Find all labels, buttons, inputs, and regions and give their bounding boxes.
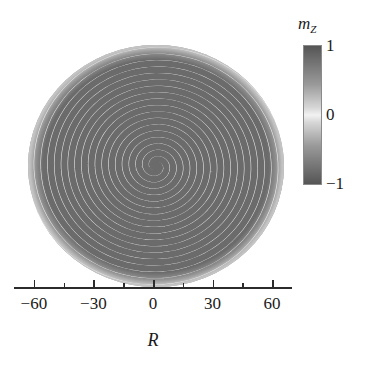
figure-panel: −60−3003060 R mZ 10−1	[0, 0, 372, 374]
x-axis-minor-tick	[242, 283, 243, 287]
colorbar-title-subscript: Z	[310, 23, 316, 35]
x-axis-tick	[93, 280, 95, 287]
colorbar-tick-label: 0	[326, 106, 335, 123]
x-axis	[14, 287, 292, 289]
x-axis-tick-label: −30	[66, 294, 120, 313]
magnetization-map	[28, 45, 284, 287]
x-axis-tick	[34, 280, 36, 287]
x-axis-tick-label: 60	[245, 294, 299, 313]
colorbar-tick-label: 1	[326, 37, 335, 54]
x-axis-label: R	[0, 330, 306, 351]
x-axis-tick-label: 30	[186, 294, 240, 313]
x-axis-tick	[153, 280, 155, 287]
x-axis-tick-label: −60	[7, 294, 61, 313]
colorbar-title-base: m	[298, 14, 310, 33]
spiral-disk-plot	[28, 45, 284, 287]
colorbar-title: mZ	[298, 14, 316, 35]
x-axis-tick	[213, 280, 215, 287]
x-axis-tick-label: 0	[126, 294, 180, 313]
colorbar-tick-label: −1	[326, 175, 344, 192]
x-axis-minor-tick	[64, 283, 65, 287]
colorbar-gradient	[303, 45, 322, 185]
x-axis-tick	[272, 280, 274, 287]
x-axis-minor-tick	[183, 283, 184, 287]
spiral-pattern-svg	[28, 45, 284, 287]
x-axis-minor-tick	[123, 283, 124, 287]
